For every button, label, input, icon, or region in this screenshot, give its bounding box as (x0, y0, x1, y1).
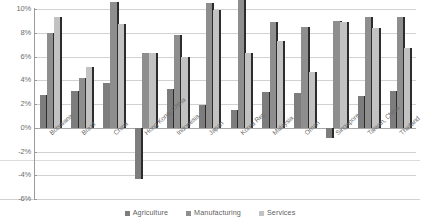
y-tick-mark (34, 33, 37, 34)
bar-group (321, 9, 353, 199)
y-tick-label: -6% (1, 195, 31, 203)
bar-shadow (347, 22, 349, 128)
y-tick-label: 0% (1, 124, 31, 132)
bar-group (384, 9, 416, 199)
y-tick-label: 2% (1, 100, 31, 108)
legend-label: Manufacturing (194, 209, 241, 217)
bar-group (257, 9, 289, 199)
bar (294, 9, 300, 199)
y-tick-label: 4% (1, 76, 31, 84)
bar (397, 9, 403, 199)
y-tick-mark (34, 57, 37, 58)
legend-item: Agriculture (125, 209, 168, 217)
bar-shadow (219, 10, 221, 128)
bar (213, 9, 219, 199)
bar (277, 9, 283, 199)
y-tick-label: -4% (1, 171, 31, 179)
bar (40, 9, 46, 199)
bar (262, 9, 268, 199)
legend-label: Services (267, 209, 295, 217)
bar (149, 9, 155, 199)
bar-group (66, 9, 98, 199)
legend-swatch-icon (186, 211, 191, 216)
bar (372, 9, 378, 199)
plot-area (34, 9, 416, 199)
bar (231, 9, 237, 199)
bar (238, 9, 244, 199)
bar-shadow (60, 17, 62, 127)
y-tick-label: 8% (1, 29, 31, 37)
gridline-neg6 (34, 199, 416, 200)
bar-group (225, 9, 257, 199)
bar-group (130, 9, 162, 199)
y-tick-mark (34, 175, 37, 176)
legend-swatch-icon (259, 211, 264, 216)
y-tick-mark (34, 104, 37, 105)
bar (358, 9, 364, 199)
bar (340, 9, 346, 199)
bar (333, 9, 339, 199)
y-tick-label: 6% (1, 53, 31, 61)
bar (79, 9, 85, 199)
y-tick-mark (34, 80, 37, 81)
y-tick-mark (34, 152, 37, 153)
bar-shadow (124, 24, 126, 127)
bar (309, 9, 315, 199)
bar (365, 9, 371, 199)
chart-legend: AgricultureManufacturingServices (0, 206, 420, 220)
bar (71, 9, 77, 199)
bar-shadow (92, 67, 94, 128)
bar-shadow (283, 41, 285, 128)
legend-item: Services (259, 209, 295, 217)
bar-group (352, 9, 384, 199)
bar (110, 9, 116, 199)
legend-swatch-icon (125, 211, 130, 216)
y-tick-mark (34, 199, 37, 200)
bar (135, 9, 141, 199)
y-tick-mark (34, 9, 37, 10)
y-axis-labels: 10%8%6%4%2%0%-2%-4%-6% (0, 9, 31, 199)
bar-group (34, 9, 66, 199)
bar (103, 9, 109, 199)
bar-shadow (379, 28, 381, 128)
bar (199, 9, 205, 199)
bar (326, 9, 332, 199)
y-tick-label: -2% (1, 148, 31, 156)
bar (301, 9, 307, 199)
bar (404, 9, 410, 199)
y-tick-mark (34, 128, 37, 129)
bar-shadow (410, 48, 412, 128)
bar-group (289, 9, 321, 199)
bar (270, 9, 276, 199)
bar (142, 9, 148, 199)
bar (86, 9, 92, 199)
legend-label: Agriculture (133, 209, 168, 217)
bar (206, 9, 212, 199)
bar-group (193, 9, 225, 199)
bar (54, 9, 60, 199)
bar (245, 9, 251, 199)
bar (47, 9, 53, 199)
legend-item: Manufacturing (186, 209, 241, 217)
bar (118, 9, 124, 199)
y-tick-label: 10% (1, 5, 31, 13)
bar-group (98, 9, 130, 199)
